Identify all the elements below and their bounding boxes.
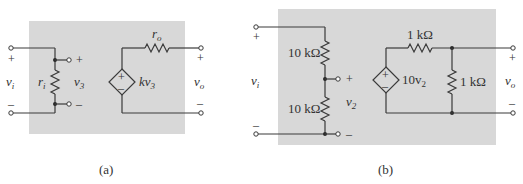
output-minus-sign: – <box>508 96 516 110</box>
output-minus-terminal <box>511 111 515 115</box>
source-minus-sign: – <box>117 81 125 95</box>
input-plus-terminal <box>9 46 13 50</box>
lower-resistor-label: 10 kΩ <box>288 101 320 116</box>
input-voltage-label: vi <box>6 74 15 91</box>
output-minus-terminal <box>199 111 203 115</box>
input-minus-terminal <box>9 111 13 115</box>
output-plus-sign: + <box>197 51 204 65</box>
v2-plus-sign: + <box>346 72 353 86</box>
v3-minus-sign: – <box>75 97 83 111</box>
output-voltage-label: vo <box>505 73 516 90</box>
output-voltage-label: vo <box>194 74 205 91</box>
v3-plus-sign: + <box>76 53 83 67</box>
shunt-resistor-label: 1 kΩ <box>460 74 486 89</box>
panel-b: + – vi 10 kΩ 10 kΩ + – v2 + – 10v2 1 kΩ … <box>251 9 516 177</box>
v2-plus-terminal <box>336 77 340 81</box>
input-voltage-label: vi <box>251 73 260 90</box>
circuit-figure: + – vi ri + – v3 + – kv3 ro + – vo (a) <box>0 0 523 184</box>
v3-minus-terminal <box>67 102 71 106</box>
panel-b-caption: (b) <box>378 162 393 177</box>
input-minus-sign: – <box>7 97 15 111</box>
panel-a-caption: (a) <box>99 162 113 177</box>
input-plus-terminal <box>254 25 258 29</box>
input-plus-sign: + <box>8 52 15 66</box>
input-minus-sign: – <box>252 118 260 132</box>
output-plus-terminal <box>199 46 203 50</box>
v3-plus-terminal <box>67 58 71 62</box>
v2-minus-sign: – <box>345 127 353 141</box>
v2-minus-terminal <box>336 132 340 136</box>
panel-a-background <box>29 21 185 134</box>
upper-resistor-label: 10 kΩ <box>288 45 320 60</box>
series-resistor-label: 1 kΩ <box>407 27 433 42</box>
output-plus-terminal <box>511 46 515 50</box>
output-minus-sign: – <box>196 96 204 110</box>
source-minus-sign: – <box>381 79 389 93</box>
input-minus-terminal <box>254 132 258 136</box>
panel-a: + – vi ri + – v3 + – kv3 ro + – vo (a) <box>6 21 205 177</box>
input-plus-sign: + <box>253 30 260 44</box>
output-plus-sign: + <box>509 51 516 65</box>
